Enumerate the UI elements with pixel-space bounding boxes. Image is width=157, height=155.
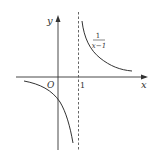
- function-graph: y x O 1 1 x−1: [0, 0, 157, 155]
- x-tick-1: 1: [80, 81, 85, 90]
- origin-label: O: [47, 80, 55, 90]
- function-label-denominator: x−1: [92, 42, 106, 50]
- curve-right-branch: [82, 21, 132, 71]
- function-label-numerator: 1: [96, 32, 100, 40]
- y-axis-label: y: [46, 15, 53, 26]
- y-axis-arrow-icon: [56, 15, 61, 22]
- x-axis-label: x: [141, 79, 147, 90]
- curve-left-branch: [24, 81, 73, 143]
